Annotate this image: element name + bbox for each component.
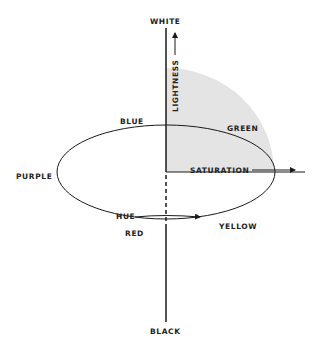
- shaded-region: [166, 68, 274, 172]
- hue-arrow: [135, 216, 200, 218]
- label-hue: HUE: [116, 212, 135, 221]
- label-saturation: SATURATION: [190, 166, 249, 175]
- label-purple: PURPLE: [16, 172, 52, 181]
- label-blue: BLUE: [120, 117, 144, 126]
- label-green: GREEN: [227, 124, 258, 133]
- label-white: WHITE: [150, 17, 181, 26]
- label-black: BLACK: [150, 327, 181, 336]
- color-space-diagram: WHITE BLACK LIGHTNESS BLUE GREEN PURPLE …: [0, 0, 327, 350]
- label-yellow: YELLOW: [218, 222, 257, 231]
- label-red: RED: [125, 229, 144, 238]
- label-lightness: LIGHTNESS: [171, 60, 180, 112]
